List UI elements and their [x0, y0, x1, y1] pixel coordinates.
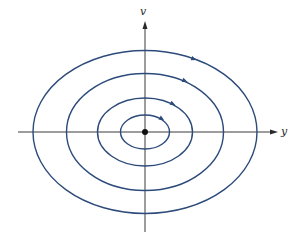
- orbit-direction-arrow-icon: [191, 56, 197, 60]
- horizontal-axis-arrow-icon: [270, 130, 278, 135]
- vertical-axis-arrow-icon: [143, 21, 148, 29]
- phase-portrait-canvas: [0, 0, 302, 242]
- vertical-axis-label: v: [140, 6, 146, 17]
- phase-portrait-diagram: v y: [0, 0, 302, 242]
- horizontal-axis-label: y: [281, 126, 287, 137]
- equilibrium-point: [142, 129, 148, 135]
